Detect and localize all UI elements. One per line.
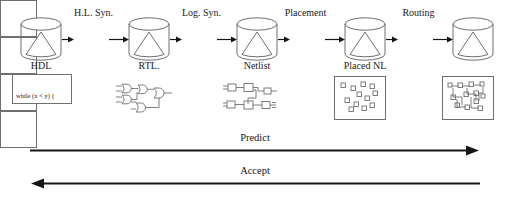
stage-box-routing	[0, 111, 37, 148]
connector-arrow-log-syn-to-netlist	[217, 35, 238, 44]
connector-arrow-placement-to-placed-nl	[325, 35, 346, 44]
code-line-1: while (x < y) {	[16, 92, 68, 100]
flow-label-predict: Predict	[215, 132, 295, 144]
connector-arrow-hl-syn-to-rtl	[109, 35, 130, 44]
data-node-rtl	[128, 17, 170, 61]
stage-label-routing: Routing	[387, 7, 450, 18]
netlist-cell-sketch	[222, 82, 294, 114]
data-node-placed-nl	[344, 17, 386, 61]
connector-arrow-placed-nl-to-routing	[386, 35, 399, 44]
stage-label-log-syn: Log. Syn.	[170, 7, 233, 18]
connector-arrow-rtl-to-log-syn	[170, 35, 183, 44]
flow-arrow-accept	[30, 178, 480, 189]
flow-arrow-predict	[30, 145, 480, 156]
rtl-gate-sketch	[114, 82, 186, 114]
connector-arrow-hdl-to-hl-syn	[62, 35, 75, 44]
placed-netlist-layout	[334, 76, 386, 120]
data-node-label-rtl: RTL.	[122, 60, 176, 71]
data-node-routed	[452, 17, 494, 61]
data-node-hdl	[20, 17, 62, 61]
flow-label-accept: Accept	[215, 165, 295, 177]
connector-arrow-netlist-to-placement	[278, 35, 291, 44]
stage-label-hl-syn: H.L. Syn.	[62, 7, 125, 18]
design-flow-diagram: HDL RTL. Netlist Placed NL	[0, 0, 507, 197]
stage-label-placement: Placement	[274, 7, 337, 18]
hdl-source-code-box: while (x < y) { x + = dt; }	[12, 74, 72, 104]
data-node-netlist	[236, 17, 278, 61]
connector-arrow-routing-to-routed	[433, 35, 454, 44]
data-node-label-hdl: HDL	[14, 60, 68, 71]
routed-netlist-layout	[442, 76, 494, 120]
data-node-label-netlist: Netlist	[230, 60, 284, 71]
data-node-label-placed-nl: Placed NL	[332, 60, 398, 71]
